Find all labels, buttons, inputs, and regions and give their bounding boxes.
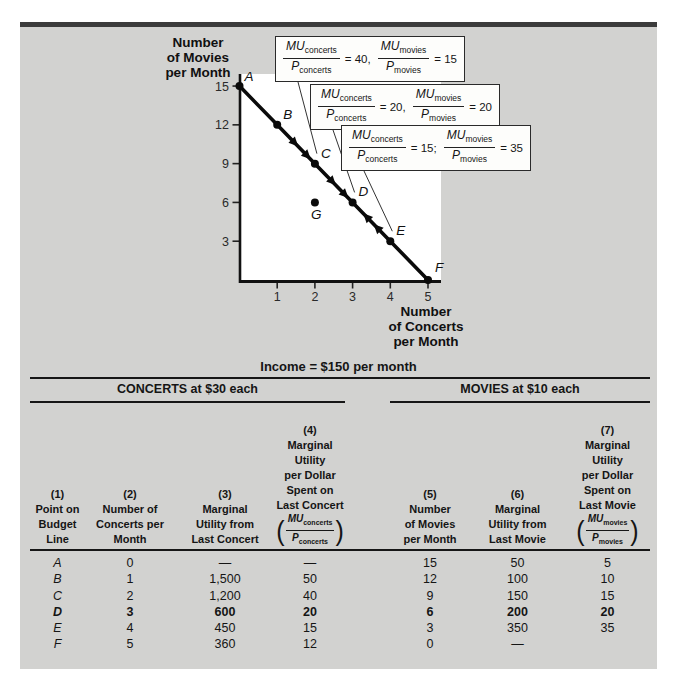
column-header-5: (5)Numberof Moviesper Month — [390, 487, 470, 547]
ratio-fraction: MUmoviesPmovies — [444, 129, 496, 167]
movies-ratio-value: = 35 — [500, 142, 523, 154]
income-rule — [30, 377, 650, 379]
value-cell: 9 — [390, 588, 470, 604]
value-cell: — — [175, 555, 275, 571]
value-cell: 600 — [175, 604, 275, 620]
y-tick-label-3: 3 — [222, 235, 229, 249]
table-row-E: E445015335035 — [30, 620, 650, 636]
value-cell: 4 — [85, 620, 175, 636]
y-axis-title-line2: of Movies — [143, 50, 253, 65]
income-note: Income = $150 per month — [20, 359, 657, 374]
value-cell: 10 — [565, 571, 650, 587]
x-tick-label-4: 4 — [387, 290, 394, 304]
point-cell: B — [30, 571, 85, 587]
y-tick-label-15: 15 — [215, 80, 229, 94]
x-tick-label-1: 1 — [274, 290, 281, 304]
header-ratio-fraction: (MUconcertsPconcerts) — [276, 513, 343, 547]
value-cell: 5 — [565, 555, 650, 571]
y-axis-title-line1: Number — [143, 35, 253, 50]
value-cell: 15 — [390, 555, 470, 571]
column-header-2: (2)Number ofConcerts perMonth — [85, 487, 175, 547]
x-axis-title-line1: Number — [370, 304, 482, 319]
value-cell: 1,200 — [175, 588, 275, 604]
textbook-figure-page: Number of Movies per Month 369121512345A… — [0, 0, 673, 684]
value-cell: 35 — [565, 620, 650, 636]
value-cell: 5 — [85, 636, 175, 652]
value-cell: 450 — [175, 620, 275, 636]
concerts-group-rule — [30, 401, 345, 403]
column-header-3: (3)MarginalUtility fromLast Concert — [175, 487, 275, 547]
x-axis-title-line3: per Month — [370, 334, 482, 349]
concerts-group-header: CONCERTS at $30 each — [30, 382, 345, 396]
table-row-A: A0——15505 — [30, 555, 650, 571]
concerts-ratio-value: = 15; — [411, 142, 437, 154]
table-body: A0——15505B11,500501210010C21,20040915015… — [30, 555, 650, 653]
table-row-D: D360020620020 — [30, 604, 650, 620]
annotation-leader-E — [364, 171, 392, 231]
direction-arrow-E-to-D — [360, 210, 373, 223]
mu-per-dollar-annotation-D: MUconcertsPconcerts= 20,MUmoviesPmovies=… — [310, 84, 500, 130]
direction-arrow-B-to-C — [301, 149, 314, 162]
column-header-1: (1)Point onBudgetLine — [30, 487, 85, 547]
direction-arrow-B-to-C — [288, 137, 301, 150]
y-tick-label-9: 9 — [222, 157, 229, 171]
point-B — [273, 121, 281, 129]
movies-group-header: MOVIES at $10 each — [390, 382, 650, 396]
value-cell: 3 — [390, 620, 470, 636]
movies-group-rule — [390, 401, 650, 403]
value-cell: 200 — [470, 604, 565, 620]
mu-per-dollar-annotation-E: MUconcertsPconcerts= 15;MUmoviesPmovies=… — [341, 125, 531, 171]
table-column-headers: (1)Point onBudgetLine(2)Number ofConcert… — [30, 414, 650, 547]
x-axis-title-line2: of Concerts — [370, 319, 482, 334]
column-header-4: (4)MarginalUtilityper DollarSpent onLast… — [275, 423, 345, 547]
ratio-fraction: MUmoviesPmovies — [413, 88, 465, 126]
value-cell: 1 — [85, 571, 175, 587]
value-cell: 50 — [275, 571, 345, 587]
point-label-D: D — [359, 184, 369, 199]
table-row-B: B11,500501210010 — [30, 571, 650, 587]
ratio-fraction: MUconcertsPconcerts — [318, 88, 375, 126]
point-cell: C — [30, 588, 85, 604]
point-label-B: B — [283, 107, 292, 122]
value-cell: 20 — [565, 604, 650, 620]
point-label-G: G — [311, 207, 322, 222]
concerts-ratio-value: = 40, — [345, 53, 371, 65]
ratio-fraction: MUconcertsPconcerts — [283, 40, 340, 78]
concerts-ratio-value: = 20, — [380, 101, 406, 113]
y-axis-title-line3: per Month — [143, 65, 253, 80]
direction-arrow-C-to-D — [326, 175, 339, 188]
value-cell: 12 — [390, 571, 470, 587]
value-cell: — — [275, 555, 345, 571]
column-header-6: (6)MarginalUtility fromLast Movie — [470, 487, 565, 547]
value-cell: 15 — [565, 588, 650, 604]
point-cell: F — [30, 636, 85, 652]
value-cell: 0 — [390, 636, 470, 652]
point-G — [311, 198, 319, 206]
table-header-rule — [30, 549, 650, 551]
point-F — [424, 276, 432, 284]
x-tick-label-5: 5 — [425, 290, 432, 304]
figure-panel: Number of Movies per Month 369121512345A… — [20, 22, 657, 669]
point-label-F: F — [435, 260, 444, 275]
value-cell: 360 — [175, 636, 275, 652]
x-tick-label-3: 3 — [349, 290, 356, 304]
point-A — [236, 82, 244, 90]
value-cell: 12 — [275, 636, 345, 652]
value-cell: 40 — [275, 588, 345, 604]
point-C — [311, 160, 319, 168]
table-row-C: C21,20040915015 — [30, 588, 650, 604]
mu-per-dollar-annotation-C: MUconcertsPconcerts= 40,MUmoviesPmovies=… — [275, 36, 465, 82]
point-cell: E — [30, 620, 85, 636]
y-axis-title: Number of Movies per Month — [143, 35, 253, 80]
direction-arrow-C-to-D — [339, 188, 352, 201]
x-tick-label-2: 2 — [311, 290, 318, 304]
header-ratio-fraction: (MUmoviesPmovies) — [576, 513, 638, 547]
value-cell: 150 — [470, 588, 565, 604]
point-label-E: E — [396, 223, 406, 238]
point-cell: A — [30, 555, 85, 571]
value-cell: 15 — [275, 620, 345, 636]
point-cell: D — [30, 604, 85, 620]
value-cell — [565, 636, 650, 652]
x-axis-title: Number of Concerts per Month — [370, 304, 482, 349]
movies-ratio-value: = 20 — [469, 101, 492, 113]
